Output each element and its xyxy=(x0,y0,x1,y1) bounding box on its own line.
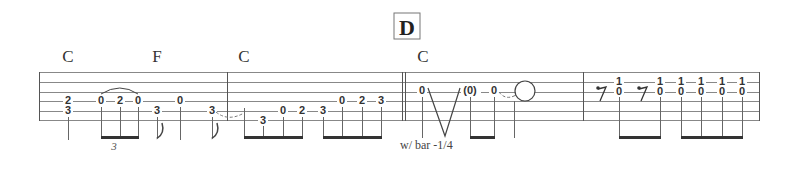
triplet-mark: 3 xyxy=(110,140,117,152)
fret-number: 2 xyxy=(117,94,123,106)
fret-number: 0 xyxy=(177,94,183,106)
fret-number: 2 xyxy=(359,94,365,106)
fret-number: 3 xyxy=(65,104,71,116)
fret-number: 0 xyxy=(678,85,684,97)
fret-number: 0 xyxy=(657,85,663,97)
fret-number: 0 xyxy=(419,84,425,96)
beam xyxy=(470,136,495,139)
fret-number: 2 xyxy=(299,104,305,116)
fret-number: 0 xyxy=(491,84,497,96)
eighth-flag xyxy=(158,123,163,138)
beam xyxy=(619,136,661,139)
whammy-bar-label: w/ bar -1/4 xyxy=(400,138,453,152)
tablature-staff: D C F C C 2 3 0 2 0 xyxy=(0,0,799,170)
fret-number: 0 xyxy=(280,104,286,116)
chord-symbol: C xyxy=(238,47,249,66)
fret-number: 3 xyxy=(378,94,384,106)
eighth-flag xyxy=(213,123,218,138)
fret-number: 3 xyxy=(209,104,215,116)
chord-symbol: F xyxy=(152,47,161,66)
tied-note-circle xyxy=(515,81,535,101)
beam xyxy=(681,136,743,139)
eighth-rest-icon xyxy=(596,86,606,101)
fret-number: 0 xyxy=(339,94,345,106)
beam xyxy=(101,136,139,139)
ghost-fret-number: (0) xyxy=(463,84,477,96)
fret-number: 0 xyxy=(698,85,704,97)
eighth-rest-icon xyxy=(637,86,647,101)
fret-number: 3 xyxy=(154,104,160,116)
rehearsal-mark: D xyxy=(399,15,415,40)
barlines xyxy=(40,72,760,121)
beam xyxy=(323,136,382,139)
chord-symbol: C xyxy=(417,47,428,66)
fret-number: 0 xyxy=(719,85,725,97)
measure-3: 0 w/ bar -1/4 (0) 0 xyxy=(400,81,535,152)
chord-symbol: C xyxy=(62,47,73,66)
fret-number: 3 xyxy=(260,114,266,126)
measure-2: 3 0 2 3 0 2 3 xyxy=(244,94,386,139)
fret-number: 3 xyxy=(320,104,326,116)
fret-number: 0 xyxy=(739,85,745,97)
beam xyxy=(244,136,303,139)
fret-number: 0 xyxy=(135,94,141,106)
staff-lines xyxy=(39,73,760,121)
fret-number: 0 xyxy=(98,94,104,106)
measure-4: 1 0 1 0 1 0 1 0 1 0 1 0 xyxy=(596,75,747,139)
fret-number: 0 xyxy=(616,85,622,97)
tie xyxy=(216,112,244,117)
